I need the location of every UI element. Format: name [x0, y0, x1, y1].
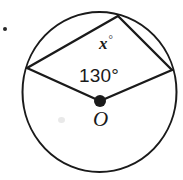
degree-symbol-icon: °: [109, 33, 113, 45]
chord-top-right: [118, 16, 172, 70]
unknown-angle-variable: x: [99, 34, 108, 53]
unknown-angle-label: x°: [99, 33, 112, 52]
central-angle-label: 130°: [79, 66, 119, 85]
bullet-mark-icon: [3, 27, 7, 31]
geometry-figure: x° 130° O: [0, 0, 183, 180]
center-point-dot: [94, 95, 106, 107]
center-point-label: O: [93, 109, 108, 130]
scan-artifact: [58, 117, 65, 123]
circle-diagram-canvas: [0, 0, 183, 180]
